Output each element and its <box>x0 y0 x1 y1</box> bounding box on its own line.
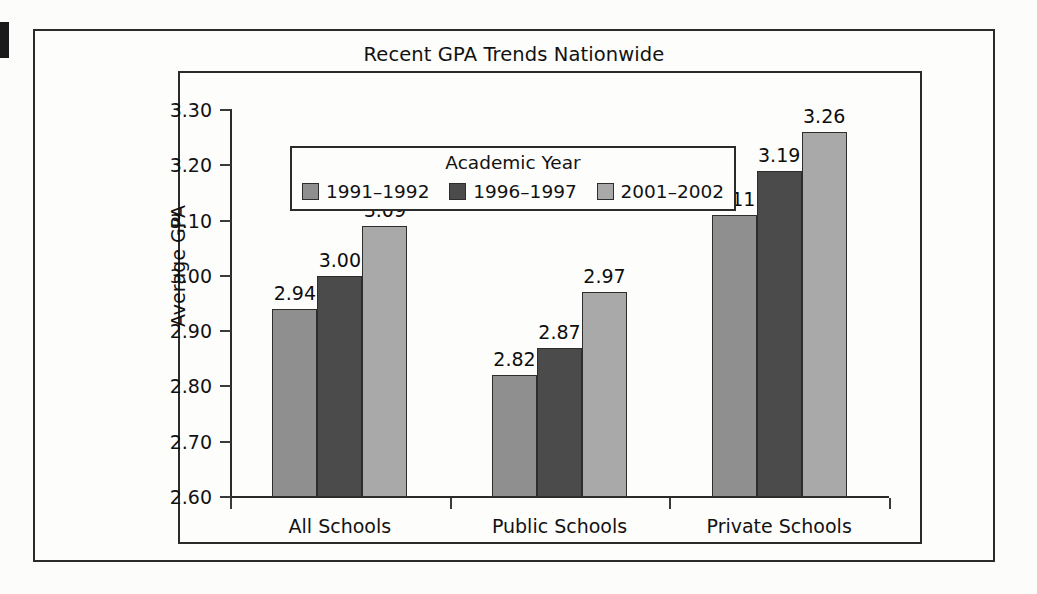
x-axis-tick <box>230 498 232 509</box>
y-axis-title: Average GPA <box>167 205 189 327</box>
legend-item-label: 1991–1992 <box>326 181 429 202</box>
legend-item-label: 2001–2002 <box>621 181 724 202</box>
bar <box>272 309 317 497</box>
y-axis-tick-label: 2.60 <box>142 486 212 508</box>
bar <box>712 215 757 497</box>
legend-item[interactable]: 1996–1997 <box>449 181 576 202</box>
legend-swatch-icon <box>449 183 466 200</box>
legend-item-label: 1996–1997 <box>473 181 576 202</box>
chart-legend: Academic Year 1991–19921996–19972001–200… <box>290 146 736 211</box>
legend-item[interactable]: 1991–1992 <box>302 181 429 202</box>
bar-value-label: 2.94 <box>274 282 316 304</box>
x-axis-tick <box>450 498 452 509</box>
figure-page: Recent GPA Trends Nationwide 3.303.203.1… <box>0 0 1037 594</box>
y-axis-tick <box>220 164 231 166</box>
y-axis-tick-label: 3.30 <box>142 99 212 121</box>
bar <box>757 171 802 497</box>
bar <box>492 375 537 497</box>
page-edge-artifact <box>0 22 9 58</box>
x-axis-tick <box>889 498 891 509</box>
x-axis-category-label: All Schools <box>289 515 392 537</box>
figure-outer-frame: Recent GPA Trends Nationwide 3.303.203.1… <box>33 29 995 562</box>
y-axis-tick-label: 3.20 <box>142 154 212 176</box>
legend-item[interactable]: 2001–2002 <box>597 181 724 202</box>
y-axis-tick <box>220 220 231 222</box>
y-axis-tick <box>220 275 231 277</box>
bar-value-label: 2.87 <box>538 321 580 343</box>
bar <box>317 276 362 497</box>
bar <box>362 226 407 497</box>
bar-value-label: 3.19 <box>758 144 800 166</box>
y-axis-tick <box>220 330 231 332</box>
bar-value-label: 2.82 <box>493 348 535 370</box>
y-axis-line <box>230 109 232 498</box>
y-axis-tick <box>220 109 231 111</box>
bar <box>582 292 627 497</box>
x-axis-tick <box>669 498 671 509</box>
x-axis-category-label: Private Schools <box>707 515 852 537</box>
legend-item-list: 1991–19921996–19972001–2002 <box>302 181 724 202</box>
y-axis-tick <box>220 385 231 387</box>
legend-title: Academic Year <box>292 152 734 173</box>
legend-swatch-icon <box>302 183 319 200</box>
bar-value-label: 3.26 <box>803 105 845 127</box>
bar <box>537 348 582 497</box>
bar-value-label: 3.00 <box>319 249 361 271</box>
bar-value-label: 2.97 <box>583 265 625 287</box>
bar <box>802 132 847 497</box>
x-axis-category-label: Public Schools <box>492 515 627 537</box>
y-axis-tick <box>220 441 231 443</box>
chart-title: Recent GPA Trends Nationwide <box>35 43 993 66</box>
y-axis-tick-label: 2.80 <box>142 375 212 397</box>
y-axis-tick-label: 2.70 <box>142 431 212 453</box>
legend-swatch-icon <box>597 183 614 200</box>
